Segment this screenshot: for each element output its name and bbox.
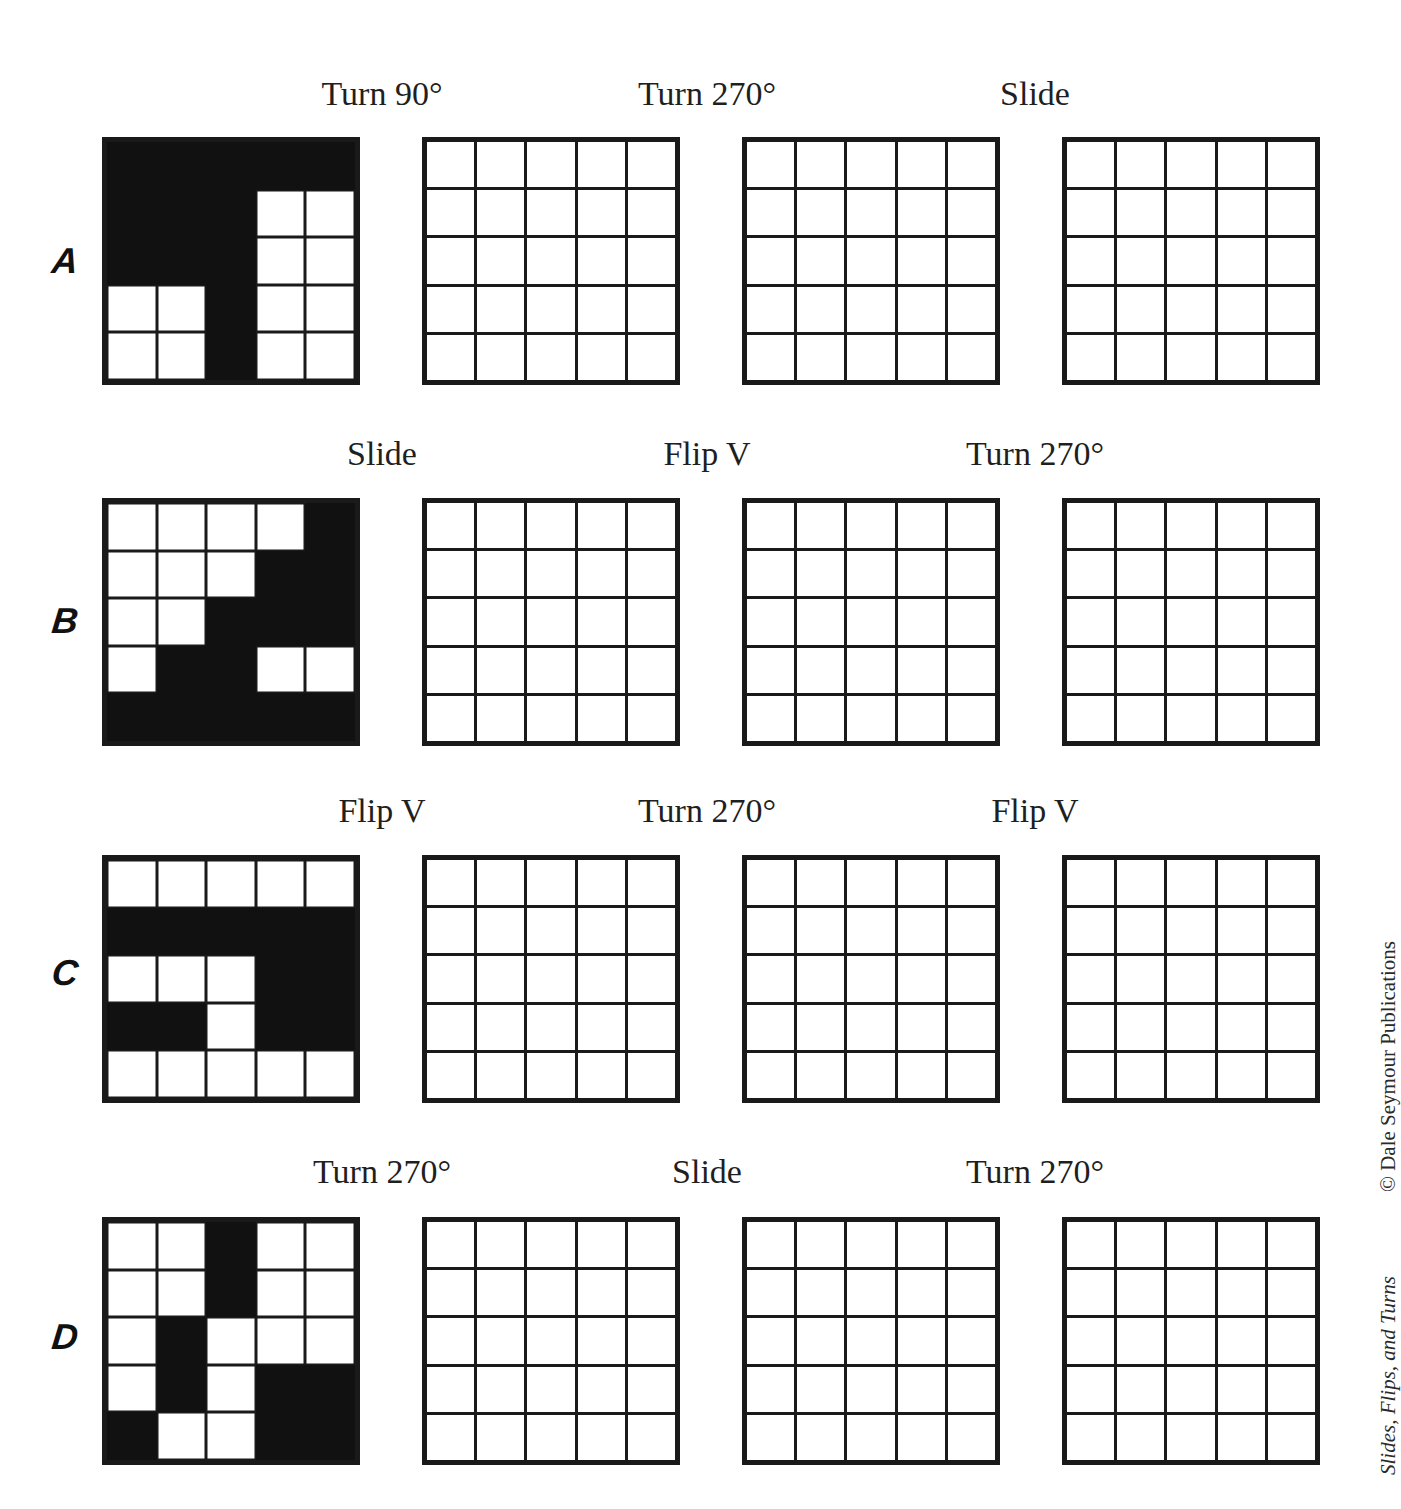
empty-cell[interactable] — [797, 1415, 844, 1460]
empty-cell[interactable] — [797, 1222, 844, 1267]
empty-cell[interactable] — [1167, 956, 1214, 1001]
empty-cell[interactable] — [948, 696, 995, 741]
empty-cell[interactable] — [948, 551, 995, 596]
empty-cell[interactable] — [1268, 551, 1315, 596]
empty-cell[interactable] — [747, 599, 794, 644]
empty-cell[interactable] — [1067, 335, 1114, 380]
empty-cell[interactable] — [477, 648, 524, 693]
empty-cell[interactable] — [578, 696, 625, 741]
empty-cell[interactable] — [1117, 238, 1164, 283]
empty-cell[interactable] — [628, 1222, 675, 1267]
empty-cell[interactable] — [847, 1367, 894, 1412]
empty-cell[interactable] — [527, 1222, 574, 1267]
empty-cell[interactable] — [898, 190, 945, 235]
empty-cell[interactable] — [1117, 1270, 1164, 1315]
empty-cell[interactable] — [527, 142, 574, 187]
empty-cell[interactable] — [527, 648, 574, 693]
empty-cell[interactable] — [1167, 1367, 1214, 1412]
empty-cell[interactable] — [578, 1053, 625, 1098]
empty-cell[interactable] — [747, 142, 794, 187]
empty-cell[interactable] — [847, 335, 894, 380]
empty-cell[interactable] — [747, 551, 794, 596]
empty-cell[interactable] — [578, 551, 625, 596]
empty-cell[interactable] — [1067, 599, 1114, 644]
answer-grid[interactable] — [742, 855, 1000, 1103]
empty-cell[interactable] — [747, 648, 794, 693]
empty-cell[interactable] — [747, 1005, 794, 1050]
empty-cell[interactable] — [527, 190, 574, 235]
empty-cell[interactable] — [1117, 956, 1164, 1001]
empty-cell[interactable] — [797, 1005, 844, 1050]
empty-cell[interactable] — [747, 190, 794, 235]
empty-cell[interactable] — [898, 1005, 945, 1050]
empty-cell[interactable] — [527, 1415, 574, 1460]
empty-cell[interactable] — [628, 956, 675, 1001]
empty-cell[interactable] — [797, 1053, 844, 1098]
empty-cell[interactable] — [628, 335, 675, 380]
empty-cell[interactable] — [578, 599, 625, 644]
empty-cell[interactable] — [628, 1053, 675, 1098]
empty-cell[interactable] — [427, 1415, 474, 1460]
empty-cell[interactable] — [477, 287, 524, 332]
empty-cell[interactable] — [1218, 551, 1265, 596]
empty-cell[interactable] — [847, 696, 894, 741]
empty-cell[interactable] — [1067, 1318, 1114, 1363]
empty-cell[interactable] — [898, 503, 945, 548]
empty-cell[interactable] — [1067, 551, 1114, 596]
empty-cell[interactable] — [578, 648, 625, 693]
empty-cell[interactable] — [477, 1318, 524, 1363]
empty-cell[interactable] — [847, 908, 894, 953]
empty-cell[interactable] — [1067, 1053, 1114, 1098]
answer-grid[interactable] — [422, 855, 680, 1103]
empty-cell[interactable] — [477, 1367, 524, 1412]
empty-cell[interactable] — [898, 599, 945, 644]
empty-cell[interactable] — [578, 908, 625, 953]
answer-grid[interactable] — [1062, 1217, 1320, 1465]
empty-cell[interactable] — [797, 1367, 844, 1412]
empty-cell[interactable] — [427, 238, 474, 283]
empty-cell[interactable] — [948, 190, 995, 235]
empty-cell[interactable] — [847, 1318, 894, 1363]
empty-cell[interactable] — [628, 648, 675, 693]
empty-cell[interactable] — [898, 648, 945, 693]
empty-cell[interactable] — [1218, 1053, 1265, 1098]
empty-cell[interactable] — [1067, 1415, 1114, 1460]
empty-cell[interactable] — [1067, 860, 1114, 905]
empty-cell[interactable] — [1167, 142, 1214, 187]
empty-cell[interactable] — [847, 860, 894, 905]
empty-cell[interactable] — [847, 142, 894, 187]
empty-cell[interactable] — [948, 908, 995, 953]
empty-cell[interactable] — [427, 1005, 474, 1050]
empty-cell[interactable] — [948, 1367, 995, 1412]
empty-cell[interactable] — [427, 1222, 474, 1267]
empty-cell[interactable] — [1067, 238, 1114, 283]
empty-cell[interactable] — [477, 1005, 524, 1050]
empty-cell[interactable] — [1067, 142, 1114, 187]
empty-cell[interactable] — [1268, 696, 1315, 741]
empty-cell[interactable] — [527, 1270, 574, 1315]
empty-cell[interactable] — [1268, 599, 1315, 644]
empty-cell[interactable] — [477, 1053, 524, 1098]
empty-cell[interactable] — [1067, 696, 1114, 741]
empty-cell[interactable] — [1218, 1367, 1265, 1412]
empty-cell[interactable] — [747, 1053, 794, 1098]
empty-cell[interactable] — [1218, 696, 1265, 741]
empty-cell[interactable] — [427, 956, 474, 1001]
empty-cell[interactable] — [1268, 1415, 1315, 1460]
empty-cell[interactable] — [578, 1005, 625, 1050]
empty-cell[interactable] — [578, 956, 625, 1001]
empty-cell[interactable] — [1067, 908, 1114, 953]
empty-cell[interactable] — [898, 1415, 945, 1460]
empty-cell[interactable] — [847, 648, 894, 693]
empty-cell[interactable] — [1268, 1222, 1315, 1267]
empty-cell[interactable] — [1067, 503, 1114, 548]
empty-cell[interactable] — [1167, 551, 1214, 596]
empty-cell[interactable] — [578, 1222, 625, 1267]
empty-cell[interactable] — [527, 696, 574, 741]
empty-cell[interactable] — [527, 238, 574, 283]
empty-cell[interactable] — [847, 1053, 894, 1098]
empty-cell[interactable] — [898, 142, 945, 187]
empty-cell[interactable] — [477, 335, 524, 380]
empty-cell[interactable] — [1218, 335, 1265, 380]
empty-cell[interactable] — [1167, 1053, 1214, 1098]
